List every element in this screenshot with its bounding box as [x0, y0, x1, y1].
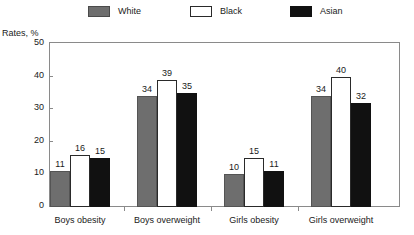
- x-tick-mark: [298, 207, 299, 211]
- bar-group: 343935: [137, 43, 197, 207]
- bar-white-boys-overweight: [137, 96, 157, 207]
- bar-black-boys-obesity: [70, 155, 90, 207]
- bar-asian-girls-obesity: [264, 171, 284, 207]
- bar-value-label: 39: [151, 68, 183, 78]
- x-tick-label: Girls overweight: [281, 215, 401, 225]
- bar-value-label: 11: [258, 159, 290, 169]
- legend-label-black: Black: [220, 7, 242, 16]
- bar-value-label: 32: [345, 91, 377, 101]
- bar-white-girls-overweight: [311, 96, 331, 207]
- y-tick-label: 10: [18, 167, 44, 177]
- legend-label-asian: Asian: [320, 7, 343, 16]
- bar-value-label: 15: [84, 146, 116, 156]
- bar-asian-boys-overweight: [177, 93, 197, 207]
- legend-item-white: White: [88, 4, 141, 18]
- y-tick-label: 30: [18, 102, 44, 112]
- legend-label-white: White: [118, 7, 141, 16]
- bar-group: 344032: [311, 43, 371, 207]
- x-tick-mark: [124, 207, 125, 211]
- bar-asian-girls-overweight: [351, 103, 371, 207]
- legend-item-asian: Asian: [290, 4, 343, 18]
- gray-swatch-icon: [88, 6, 110, 17]
- bars-layer: 111615343935101511344032: [50, 43, 399, 207]
- bar-white-boys-obesity: [50, 171, 70, 207]
- chart-legend: White Black Asian: [0, 4, 414, 18]
- black-swatch-icon: [290, 6, 312, 17]
- bar-black-boys-overweight: [157, 80, 177, 207]
- legend-item-black: Black: [190, 4, 242, 18]
- bar-group: 101511: [224, 43, 284, 207]
- y-tick-label: 0: [18, 200, 44, 210]
- bar-value-label: 35: [171, 81, 203, 91]
- bar-value-label: 15: [238, 146, 270, 156]
- bar-white-girls-obesity: [224, 174, 244, 207]
- white-swatch-icon: [190, 6, 212, 17]
- y-tick-label: 20: [18, 135, 44, 145]
- bar-value-label: 40: [325, 65, 357, 75]
- x-tick-mark: [211, 207, 212, 211]
- bar-group: 111615: [50, 43, 110, 207]
- bar-asian-boys-obesity: [90, 158, 110, 207]
- y-tick-label: 50: [18, 37, 44, 47]
- y-tick-label: 40: [18, 70, 44, 80]
- bar-chart: White Black Asian Rates, % 50403020100 1…: [0, 0, 414, 235]
